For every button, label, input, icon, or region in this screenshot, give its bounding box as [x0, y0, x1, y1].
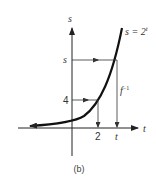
exponential-inverse-diagram: s t s = 2t s 4 2 t f−1 (b) — [0, 0, 156, 188]
x-tick-t: t — [115, 131, 118, 142]
x-axis-label: t — [143, 123, 146, 134]
y-tick-s: s — [63, 54, 67, 65]
exponential-curve — [30, 28, 122, 126]
y-axis-label: s — [68, 13, 72, 24]
curve-label: s = 2t — [125, 25, 149, 37]
y-tick-4: 4 — [63, 95, 69, 106]
x-tick-2: 2 — [95, 131, 101, 142]
inverse-label: f−1 — [120, 85, 129, 96]
figure-caption: (b) — [74, 164, 85, 174]
